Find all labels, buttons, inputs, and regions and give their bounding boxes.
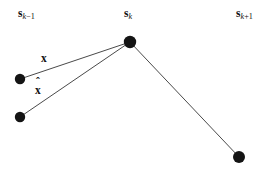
- vector-symbol: x: [41, 52, 47, 64]
- state-subscript: k: [129, 12, 133, 21]
- vector-label-x-hat: ˆx: [35, 85, 41, 97]
- state-label-s-k-plus-1: sk+1: [236, 8, 253, 21]
- diagram-canvas: sk−1 sk sk+1 x ˆx: [0, 0, 278, 170]
- edge-group: [20, 42, 239, 157]
- state-subscript-offset: +1: [244, 12, 253, 21]
- node-upper-left-dot: [15, 74, 25, 84]
- node-center-top-dot: [124, 36, 136, 48]
- vector-label-x: x: [41, 53, 47, 65]
- state-subscript-offset: −1: [26, 12, 35, 21]
- vector-hat-wrapper: ˆx: [35, 85, 41, 97]
- state-subscript-variable: k: [129, 12, 133, 21]
- node-group: [15, 36, 245, 163]
- state-subscript: k+1: [241, 12, 253, 21]
- edge-next-segment-line: [130, 42, 239, 157]
- node-lower-left-dot: [15, 112, 25, 122]
- state-subscript: k−1: [23, 12, 35, 21]
- circumflex-accent-icon: ˆ: [36, 77, 40, 89]
- edge-x-line: [20, 42, 130, 79]
- state-label-s-k: sk: [124, 8, 132, 21]
- node-lower-right-dot: [233, 151, 245, 163]
- state-label-s-k-minus-1: sk−1: [18, 8, 35, 21]
- diagram-graphics: [0, 0, 278, 170]
